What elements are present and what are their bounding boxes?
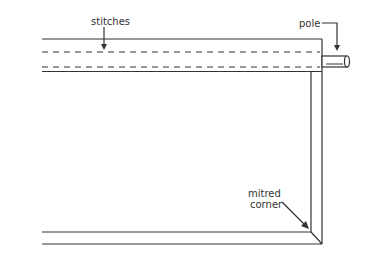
stitches-label: stitches — [91, 16, 130, 27]
mitred-label-line1: mitred — [248, 188, 281, 199]
fabric-outline — [42, 39, 322, 244]
mitred-arrow-icon — [282, 202, 309, 229]
mitred-label-line2: corner — [250, 199, 283, 210]
pole-label: pole — [299, 18, 320, 29]
pole-arrow-icon — [322, 23, 340, 51]
curtain-diagram: stitches pole mitred corner — [0, 0, 366, 256]
mitre-line — [311, 232, 322, 244]
pole-icon — [322, 56, 350, 67]
